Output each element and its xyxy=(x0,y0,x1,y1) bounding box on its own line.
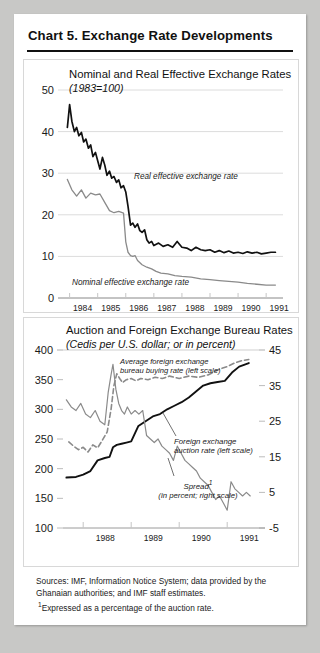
annotation-spread-sublabel: (in percent; right scale) xyxy=(158,491,237,500)
x-axis-label: 1988 xyxy=(185,303,204,312)
x-axis-label: 1988 xyxy=(96,533,115,543)
y-axis-left-label: 150 xyxy=(35,492,53,504)
y-axis-right-label: 15 xyxy=(269,451,281,463)
annotation-bureau-buying-rate: Average foreign exchange bureau buying r… xyxy=(120,358,232,375)
y-axis-label: 30 xyxy=(42,167,54,179)
top-chart-title: Nominal and Real Effective Exchange Rate… xyxy=(69,68,291,80)
x-axis-label: 1987 xyxy=(157,303,176,312)
y-axis-label: 20 xyxy=(42,209,54,221)
bottom-chart-title: Auction and Foreign Exchange Bureau Rate… xyxy=(66,324,293,336)
y-axis-left-label: 350 xyxy=(35,374,53,386)
x-axis-label: 1984 xyxy=(73,303,92,312)
chart-card: Chart 5. Exchange Rate Developments Nomi… xyxy=(14,14,306,625)
annotation-spread-footnote-marker: 1 xyxy=(209,479,213,486)
annotation-spread: Spread1 (in percent; right scale) xyxy=(128,479,268,501)
annotation-nominal-effective: Nominal effective exchange rate xyxy=(72,278,189,287)
y-axis-left-label: 200 xyxy=(35,463,53,475)
footnote-line: 1Expressed as a percentage of the auctio… xyxy=(36,600,288,615)
top-chart-panel: Nominal and Real Effective Exchange Rate… xyxy=(23,59,299,313)
y-axis-label: 40 xyxy=(42,126,54,138)
y-axis-left-label: 100 xyxy=(35,522,53,534)
annotation-real-effective: Real effective exchange rate xyxy=(134,172,238,181)
x-axis-label: 1991 xyxy=(240,533,259,543)
bottom-chart-subtitle: (Cedis per U.S. dollar; or in percent) xyxy=(66,338,236,350)
annotation-bureau-buying-rate-text: Average foreign exchange bureau buying r… xyxy=(120,357,220,375)
title-divider xyxy=(27,50,293,52)
x-axis-label: 1989 xyxy=(213,303,232,312)
y-axis-right-label: 35 xyxy=(269,380,281,392)
y-axis-label: 10 xyxy=(42,250,54,262)
x-axis-label: 1985 xyxy=(101,303,120,312)
y-axis-right-label: 25 xyxy=(269,415,281,427)
series-line-1 xyxy=(67,179,275,285)
x-axis-label: 1986 xyxy=(129,303,148,312)
x-axis-label: 1991 xyxy=(270,303,289,312)
y-axis-label: 0 xyxy=(48,292,54,304)
sources-line: Sources: IMF, Information Notice System;… xyxy=(36,576,266,598)
bottom-chart-panel: Auction and Foreign Exchange Bureau Rate… xyxy=(23,317,299,567)
leader-line-auction-rate xyxy=(163,413,176,436)
x-axis-label: 1990 xyxy=(192,533,211,543)
top-chart-plot: 0102030405019841985198619871988198919901… xyxy=(24,60,298,312)
footnote-text: Expressed as a percentage of the auction… xyxy=(42,602,214,612)
x-axis-label: 1989 xyxy=(144,533,163,543)
x-axis-label: 1990 xyxy=(242,303,261,312)
sources-note: Sources: IMF, Information Notice System;… xyxy=(36,576,288,614)
y-axis-left-label: 400 xyxy=(35,344,53,356)
y-axis-left-label: 300 xyxy=(35,403,53,415)
y-axis-label: 50 xyxy=(42,84,54,96)
annotation-spread-label: Spread xyxy=(184,482,209,491)
series-line-1 xyxy=(66,363,248,478)
y-axis-right-label: 45 xyxy=(269,344,281,356)
y-axis-right-label: 5 xyxy=(269,486,275,498)
annotation-auction-rate: Foreign exchange auction rate (left scal… xyxy=(174,438,260,456)
annotation-auction-rate-text: Foreign exchange auction rate (left scal… xyxy=(174,437,253,455)
page-root: Chart 5. Exchange Rate Developments Nomi… xyxy=(0,0,320,653)
y-axis-left-label: 250 xyxy=(35,433,53,445)
top-chart-subtitle: (1983=100) xyxy=(69,82,123,94)
page-title: Chart 5. Exchange Rate Developments xyxy=(28,28,294,43)
y-axis-right-label: -5 xyxy=(269,522,279,534)
